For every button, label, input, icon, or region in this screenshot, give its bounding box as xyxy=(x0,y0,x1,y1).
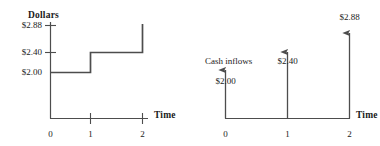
x-tick-label-1: 1 xyxy=(80,130,101,139)
cash-inflow-chart: Cash inflows $2.00 $2.40 $2.88 Time 0 1 … xyxy=(190,0,380,146)
x-tick-label-0: 0 xyxy=(40,130,61,139)
timeline-tick-label-2: 2 xyxy=(339,130,360,139)
step-function-chart: Dollars Time $2.88 $2.40 $2.00 0 1 2 xyxy=(0,0,190,146)
step-function-path xyxy=(50,24,143,73)
cash-inflows-caption: Cash inflows xyxy=(205,57,252,66)
inflow-value-label-2: $2.88 xyxy=(327,13,372,22)
figure-root: Dollars Time $2.88 $2.40 $2.00 0 1 2 Cas… xyxy=(0,0,380,146)
x-axis-title: Time xyxy=(154,111,176,121)
inflow-value-label-1: $2.40 xyxy=(265,57,310,66)
timeline-tick-label-1: 1 xyxy=(277,130,298,139)
y-tick-label-200: $2.00 xyxy=(8,68,42,77)
timeline-axis-title: Time xyxy=(356,111,378,121)
y-tick-label-288: $2.88 xyxy=(8,21,42,30)
inflow-value-label-0: $2.00 xyxy=(203,77,248,86)
timeline-tick-label-0: 0 xyxy=(215,130,236,139)
y-tick-label-240: $2.40 xyxy=(8,48,42,57)
x-tick-label-2: 2 xyxy=(132,130,153,139)
